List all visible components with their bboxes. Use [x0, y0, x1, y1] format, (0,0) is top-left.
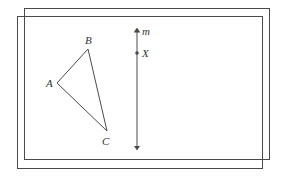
triangle-abc — [57, 49, 107, 131]
point-x-label: X — [141, 47, 150, 59]
vertex-label-c: C — [102, 135, 110, 147]
vertex-label-a: A — [45, 77, 53, 89]
vertex-label-b: B — [85, 34, 92, 46]
front-plane-rectangle — [18, 17, 263, 169]
line-m-label: m — [142, 25, 150, 37]
diagram-canvas: A B C m X — [0, 0, 285, 179]
point-x-dot — [135, 51, 139, 55]
